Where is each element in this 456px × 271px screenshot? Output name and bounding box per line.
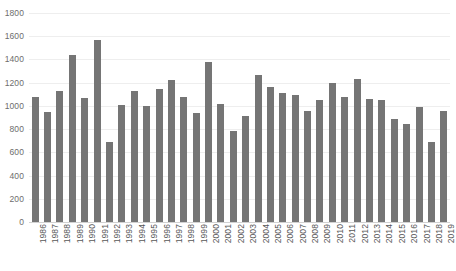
bar[interactable] xyxy=(81,98,88,222)
bar[interactable] xyxy=(193,113,200,222)
bar[interactable] xyxy=(267,87,274,222)
y-axis-tick-label: 1400 xyxy=(5,55,24,64)
bar[interactable] xyxy=(230,131,237,222)
bar[interactable] xyxy=(205,62,212,222)
x-axis-tick-label: 1988 xyxy=(63,224,72,243)
y-axis: 020040060080010001200140016001800 xyxy=(0,0,27,271)
y-axis-tick-label: 1800 xyxy=(5,9,24,18)
x-axis-tick-label: 1998 xyxy=(187,224,196,243)
bar[interactable] xyxy=(378,100,385,222)
x-axis-tick-label: 2011 xyxy=(348,224,357,243)
y-axis-tick-label: 800 xyxy=(10,125,24,134)
x-axis-tick-label: 2006 xyxy=(286,224,295,243)
bar[interactable] xyxy=(316,100,323,222)
bar[interactable] xyxy=(44,112,51,222)
bar[interactable] xyxy=(366,99,373,222)
x-axis-tick-label: 1995 xyxy=(150,224,159,243)
y-axis-tick-label: 200 xyxy=(10,195,24,204)
x-axis-tick-label: 2000 xyxy=(212,224,221,243)
x-axis-tick-label: 2002 xyxy=(237,224,246,243)
bar[interactable] xyxy=(56,91,63,222)
x-axis-tick-label: 2005 xyxy=(274,224,283,243)
y-axis-tick-label: 400 xyxy=(10,171,24,180)
x-axis-tick-label: 1987 xyxy=(51,224,60,243)
x-axis-tick-label: 2009 xyxy=(323,224,332,243)
x-axis-tick-label: 2008 xyxy=(311,224,320,243)
bar[interactable] xyxy=(118,105,125,222)
y-axis-tick-label: 0 xyxy=(19,218,24,227)
bar[interactable] xyxy=(440,111,447,222)
x-axis-tick-label: 2007 xyxy=(299,224,308,243)
x-axis-tick-label: 2013 xyxy=(373,224,382,243)
bar[interactable] xyxy=(168,80,175,222)
x-axis-tick-label: 1991 xyxy=(101,224,110,243)
bar[interactable] xyxy=(416,107,423,222)
bar[interactable] xyxy=(156,89,163,222)
x-axis: 1986198719881989199019911992199319941995… xyxy=(29,224,450,271)
x-axis-tick-label: 1990 xyxy=(88,224,97,243)
x-axis-tick-label: 1997 xyxy=(175,224,184,243)
x-axis-tick-label: 1986 xyxy=(39,224,48,243)
y-axis-tick-label: 1000 xyxy=(5,102,24,111)
bar[interactable] xyxy=(428,142,435,222)
x-axis-tick-label: 2016 xyxy=(410,224,419,243)
x-axis-tick-label: 1989 xyxy=(76,224,85,243)
bar[interactable] xyxy=(217,104,224,222)
y-axis-tick-label: 1600 xyxy=(5,32,24,41)
bar[interactable] xyxy=(304,111,311,222)
bar[interactable] xyxy=(131,91,138,222)
bar[interactable] xyxy=(106,142,113,222)
y-axis-tick-label: 1200 xyxy=(5,78,24,87)
bar[interactable] xyxy=(329,83,336,222)
x-axis-tick-label: 2018 xyxy=(435,224,444,243)
x-axis-tick-label: 2004 xyxy=(262,224,271,243)
x-axis-tick-label: 2001 xyxy=(224,224,233,243)
x-axis-tick-label: 1999 xyxy=(200,224,209,243)
bar[interactable] xyxy=(354,79,361,222)
x-axis-tick-label: 2003 xyxy=(249,224,258,243)
x-axis-tick-label: 2014 xyxy=(385,224,394,243)
x-axis-tick-label: 2017 xyxy=(423,224,432,243)
x-axis-tick-label: 1996 xyxy=(163,224,172,243)
bar[interactable] xyxy=(279,93,286,222)
bar[interactable] xyxy=(69,55,76,222)
bar[interactable] xyxy=(180,97,187,222)
bar[interactable] xyxy=(94,40,101,222)
bar[interactable] xyxy=(32,97,39,222)
bar[interactable] xyxy=(242,116,249,222)
bar[interactable] xyxy=(341,97,348,222)
x-axis-tick-label: 1992 xyxy=(113,224,122,243)
x-axis-tick-label: 2019 xyxy=(447,224,456,243)
x-axis-tick-label: 2012 xyxy=(361,224,370,243)
bar[interactable] xyxy=(143,106,150,222)
x-axis-tick-label: 2015 xyxy=(398,224,407,243)
x-axis-tick-label: 1993 xyxy=(125,224,134,243)
bar[interactable] xyxy=(403,124,410,222)
x-axis-tick-label: 1994 xyxy=(138,224,147,243)
y-axis-tick-label: 600 xyxy=(10,148,24,157)
bar[interactable] xyxy=(255,75,262,222)
bar[interactable] xyxy=(292,95,299,222)
bar[interactable] xyxy=(391,119,398,222)
x-axis-tick-label: 2010 xyxy=(336,224,345,243)
